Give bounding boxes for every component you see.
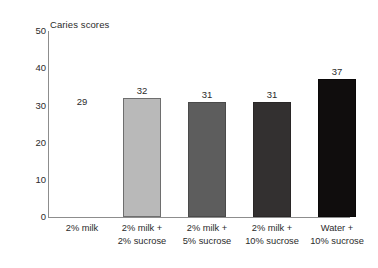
bar-5[interactable]	[318, 79, 356, 217]
x-label-line1: 2% milk +	[252, 223, 293, 233]
bar-slot-5: 37	[307, 31, 367, 217]
bar-value-label: 37	[332, 67, 343, 77]
x-label-1: 2% milk	[52, 222, 112, 235]
bar-slot-4: 31	[242, 31, 302, 217]
bar-4[interactable]	[253, 102, 291, 217]
bar-slot-1: 29	[52, 31, 112, 217]
bar-value-label: 29	[77, 97, 88, 107]
bar-slot-3: 31	[177, 31, 237, 217]
x-label-2: 2% milk + 2% sucrose	[112, 222, 172, 248]
x-label-5: Water + 10% sucrose	[304, 222, 370, 248]
x-label-4: 2% milk + 10% sucrose	[239, 222, 305, 248]
plot-area: 29 32 31 31 37	[49, 31, 350, 217]
y-tick-label: 40	[2, 63, 46, 73]
bar-chart: Caries scores 50 40 30 20 10 0 29 32 31 …	[0, 0, 378, 268]
bar-value-label: 31	[202, 90, 213, 100]
y-tick-label: 20	[2, 138, 46, 148]
bar-2[interactable]	[123, 98, 161, 217]
y-tick-label: 30	[2, 101, 46, 111]
x-axis-line	[48, 217, 350, 218]
y-tick-label: 10	[2, 175, 46, 185]
y-tick-label: 0	[2, 212, 46, 222]
x-label-line1: 2% milk	[66, 223, 99, 233]
y-tick-label: 50	[2, 26, 46, 36]
x-label-line2: 10% sucrose	[304, 235, 370, 248]
x-label-line2: 2% sucrose	[112, 235, 172, 248]
x-label-line2: 10% sucrose	[239, 235, 305, 248]
x-label-line2: 5% sucrose	[177, 235, 237, 248]
bar-slot-2: 32	[112, 31, 172, 217]
bar-value-label: 32	[137, 86, 148, 96]
bar-3[interactable]	[188, 102, 226, 217]
chart-title: Caries scores	[50, 19, 109, 30]
y-axis-tick-labels: 50 40 30 20 10 0	[0, 0, 46, 268]
x-label-line1: 2% milk +	[122, 223, 163, 233]
x-label-line1: 2% milk +	[187, 223, 228, 233]
x-axis-category-labels: 2% milk 2% milk + 2% sucrose 2% milk + 5…	[49, 222, 350, 266]
x-label-line1: Water +	[321, 223, 353, 233]
x-label-3: 2% milk + 5% sucrose	[177, 222, 237, 248]
bar-value-label: 31	[267, 90, 278, 100]
